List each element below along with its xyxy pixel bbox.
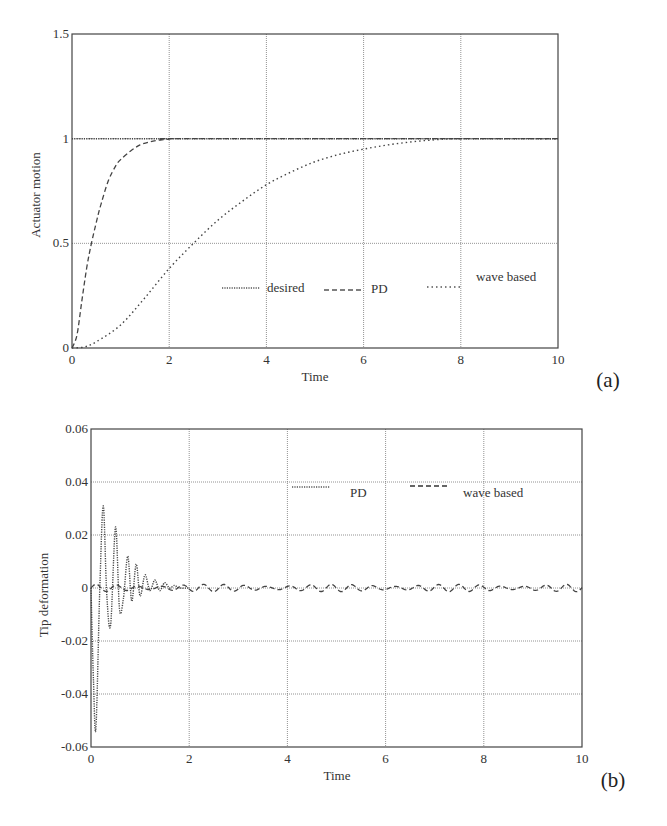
chart-a-actuator-motion: 024681000.511.5 Time Actuator motion des… (28, 26, 620, 392)
legend-pd-label: PD (371, 281, 388, 296)
chart-a-xlabel: Time (302, 369, 329, 384)
y-tick-label: -0.02 (61, 633, 88, 648)
legend-pd-label-b: PD (350, 485, 367, 500)
y-tick-label: 0 (63, 340, 70, 355)
panel-label-a: (a) (596, 368, 619, 392)
chart-b-grid (91, 429, 582, 747)
y-tick-label: 1.5 (53, 26, 69, 41)
chart-b-tick-labels: 0246810-0.06-0.04-0.0200.020.040.06 (61, 421, 589, 766)
x-tick-label: 6 (382, 751, 389, 766)
x-tick-label: 10 (552, 352, 565, 367)
x-tick-label: 4 (263, 352, 270, 367)
x-tick-label: 10 (576, 751, 589, 766)
chart-b-legend: PD wave based (292, 485, 524, 500)
series-wave-based (91, 584, 582, 591)
chart-a-grid (72, 34, 558, 348)
y-tick-label: 0 (82, 580, 89, 595)
chart-b-axes-box (91, 429, 582, 747)
x-tick-label: 0 (69, 352, 76, 367)
x-tick-label: 2 (186, 751, 193, 766)
chart-b-xlabel: Time (324, 768, 351, 783)
legend-desired-label: desired (267, 280, 305, 295)
y-tick-label: 0.5 (53, 235, 69, 250)
chart-b-tip-deformation: 0246810-0.06-0.04-0.0200.020.040.06 Time… (36, 421, 625, 792)
y-tick-label: 0.06 (65, 421, 88, 436)
x-tick-label: 2 (166, 352, 173, 367)
y-tick-label: 0.02 (65, 527, 88, 542)
series-PD (91, 506, 189, 732)
x-tick-label: 0 (88, 751, 95, 766)
x-tick-label: 4 (284, 751, 291, 766)
figure: 024681000.511.5 Time Actuator motion des… (0, 0, 667, 826)
y-tick-label: 0.04 (65, 474, 88, 489)
chart-a-legend: desired PD wave based (222, 269, 537, 296)
chart-b-series (91, 506, 582, 732)
legend-wave-label: wave based (476, 269, 537, 284)
x-tick-label: 8 (458, 352, 465, 367)
y-tick-label: -0.06 (61, 739, 89, 754)
x-tick-label: 6 (360, 352, 367, 367)
legend-wave-label-b: wave based (463, 485, 524, 500)
chart-a-axes-box (72, 34, 558, 348)
chart-a-ylabel: Actuator motion (28, 152, 43, 238)
x-tick-label: 8 (481, 751, 488, 766)
chart-b-ylabel: Tip deformation (36, 552, 51, 637)
panel-label-b: (b) (601, 768, 626, 792)
y-tick-label: -0.04 (61, 686, 89, 701)
y-tick-label: 1 (63, 131, 70, 146)
